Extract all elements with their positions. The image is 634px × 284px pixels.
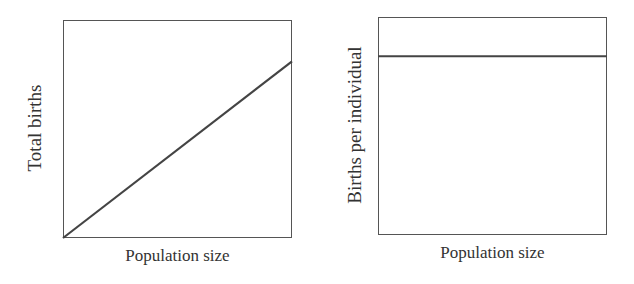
plot-line-right bbox=[378, 17, 607, 235]
y-axis-label-right: Births per individual bbox=[344, 25, 366, 225]
x-axis-label-left: Population size bbox=[63, 246, 292, 266]
x-axis-label-right: Population size bbox=[378, 243, 607, 263]
plot-line-left bbox=[63, 20, 292, 238]
y-axis-label-left: Total births bbox=[24, 63, 46, 193]
